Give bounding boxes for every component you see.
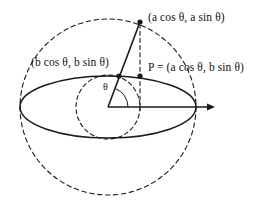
label-outer-point: (a cos θ, a sin θ) (148, 12, 225, 24)
label-angle-theta: θ (103, 82, 108, 92)
label-ellipse-point: P = (a cos θ, b sin θ) (148, 62, 244, 74)
point-p-on-ellipse (137, 73, 142, 78)
point-outer-circle (137, 19, 142, 24)
horizontal-axis-arrowhead (207, 103, 215, 110)
figure-canvas (0, 0, 259, 203)
ellipse-parametrization-figure: (a cos θ, a sin θ) (b cos θ, b sin θ) P … (0, 0, 259, 203)
angle-arc (116, 89, 129, 107)
point-inner-circle (116, 73, 121, 78)
radial-ray (108, 22, 140, 107)
label-inner-point: (b cos θ, b sin θ) (31, 57, 109, 69)
